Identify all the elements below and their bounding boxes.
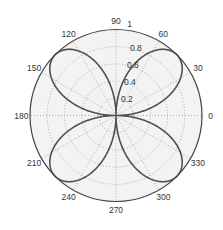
angle-label: 120	[62, 29, 76, 39]
angle-label: 180	[14, 111, 28, 121]
polar-plot: 0306090120150180210240270300330 0.20.40.…	[0, 0, 223, 230]
radius-label: 0.8	[130, 43, 142, 53]
radius-label: 1	[127, 19, 132, 29]
radius-label: 0.2	[121, 94, 133, 104]
angle-label: 240	[62, 192, 76, 202]
angle-label: 90	[111, 16, 121, 26]
angle-label: 0	[208, 111, 213, 121]
angle-label: 60	[159, 29, 169, 39]
radius-label: 0.4	[124, 77, 136, 87]
angle-label: 270	[109, 205, 123, 215]
angle-label: 150	[27, 63, 41, 73]
angle-label: 210	[27, 158, 41, 168]
radius-label: 0.6	[127, 60, 139, 70]
angle-label: 300	[156, 192, 170, 202]
angle-label: 330	[191, 158, 205, 168]
angle-label: 30	[193, 63, 203, 73]
